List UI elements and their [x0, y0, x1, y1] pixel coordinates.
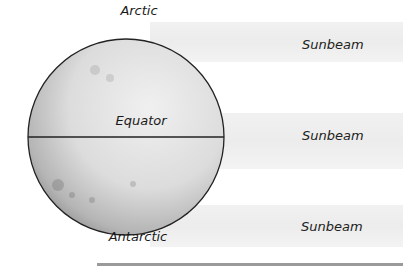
arctic-label: Arctic: [120, 3, 157, 18]
equator-label: Equator: [115, 113, 166, 128]
diagram: Arctic Equator Antarctic Sunbeam Sunbeam…: [0, 0, 403, 266]
antarctic-label: Antarctic: [109, 229, 168, 244]
sunbeam-label-middle: Sunbeam: [302, 128, 364, 143]
sunbeam-label-bottom: Sunbeam: [301, 219, 363, 234]
sunbeam-label-top: Sunbeam: [302, 37, 364, 52]
